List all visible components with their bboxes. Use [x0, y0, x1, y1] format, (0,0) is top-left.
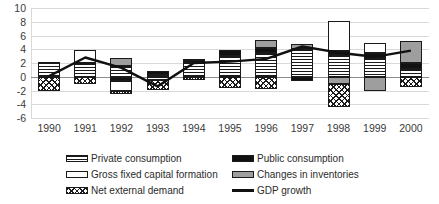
bar-segment [328, 55, 350, 77]
x-axis-tick-label: 1992 [110, 122, 133, 134]
bar-segment [74, 77, 96, 84]
bar-segment [328, 84, 350, 107]
bar-series-layer [31, 8, 429, 118]
public-consumption-swatch [232, 155, 254, 162]
bar-segment [219, 50, 241, 56]
chart-legend: Private consumptionPublic consumptionGro… [66, 150, 406, 198]
bar-group [219, 8, 241, 118]
bar-group [328, 8, 350, 118]
net-external-demand-swatch [66, 187, 88, 194]
bar-segment [110, 58, 132, 67]
bar-segment [400, 63, 422, 69]
bar-segment [255, 48, 277, 54]
bar-group [74, 8, 96, 118]
legend-item[interactable]: GDP growth [232, 185, 406, 196]
x-axis-tick-label: 1990 [37, 122, 60, 134]
legend-label: GDP growth [257, 185, 311, 196]
stacked-bar-chart: 1086420-2-4-6 19901991199219931994199519… [0, 0, 439, 204]
gdp-growth-line-swatch [232, 189, 254, 192]
bar-group [291, 8, 313, 118]
bar-segment [291, 49, 313, 77]
bar-segment [400, 69, 422, 77]
bar-group [183, 8, 205, 118]
bar-segment [110, 66, 132, 76]
legend-item[interactable]: Public consumption [232, 153, 406, 164]
changes-in-inventories-swatch [232, 171, 254, 178]
bar-segment [147, 80, 169, 90]
bar-segment [364, 58, 386, 77]
x-axis-tick-label: 1997 [291, 122, 314, 134]
x-axis-tick-label: 1995 [218, 122, 241, 134]
x-axis-tick-label: 2000 [399, 122, 422, 134]
bar-segment [400, 41, 422, 63]
bar-segment [364, 53, 386, 57]
bar-segment [328, 51, 350, 54]
y-axis-tick-label: -2 [17, 85, 26, 96]
x-axis-tick-label: 1998 [327, 122, 350, 134]
legend-item[interactable]: Private consumption [66, 153, 232, 164]
y-axis-tick-label: 6 [20, 30, 26, 41]
bar-group [364, 8, 386, 118]
x-axis-tick-label: 1996 [254, 122, 277, 134]
bar-segment [183, 59, 205, 61]
bar-segment [38, 77, 60, 91]
bar-segment [110, 91, 132, 94]
bar-segment [183, 77, 205, 80]
y-axis-tick-label: 10 [14, 3, 26, 14]
legend-label: Net external demand [91, 185, 184, 196]
bar-group [38, 8, 60, 118]
bar-segment [255, 77, 277, 89]
gfcf-swatch [66, 171, 88, 178]
bar-group [400, 8, 422, 118]
bar-group [147, 8, 169, 118]
bar-segment [74, 63, 96, 77]
bar-segment [291, 44, 313, 50]
bar-segment [364, 77, 386, 91]
bar-segment [328, 77, 350, 85]
x-axis-tick-label: 1991 [74, 122, 97, 134]
y-axis-tick-label: -4 [17, 99, 26, 110]
bar-group [255, 8, 277, 118]
bar-segment [74, 50, 96, 63]
y-axis-tick-label: 8 [20, 17, 26, 28]
y-axis-tick-label: 4 [20, 44, 26, 55]
bar-segment [147, 71, 169, 74]
bar-segment [291, 77, 313, 81]
bar-segment [219, 77, 241, 89]
y-axis-tick-label: -6 [17, 113, 26, 124]
legend-label: Private consumption [91, 153, 182, 164]
plot-area: 1086420-2-4-6 [31, 8, 429, 118]
bar-segment [110, 81, 132, 91]
bar-segment [255, 40, 277, 48]
legend-item[interactable]: Changes in inventories [232, 169, 406, 180]
gridline: -6 [31, 118, 429, 119]
bar-group [110, 8, 132, 118]
y-axis-tick-label: 0 [20, 72, 26, 83]
legend-label: Gross fixed capital formation [91, 169, 218, 180]
legend-label: Public consumption [257, 153, 344, 164]
legend-item[interactable]: Net external demand [66, 185, 232, 196]
x-axis-tick-label: 1993 [146, 122, 169, 134]
bar-segment [183, 62, 205, 77]
bar-segment [400, 77, 422, 87]
x-axis-tick-label: 1999 [363, 122, 386, 134]
bar-segment [219, 56, 241, 77]
private-consumption-swatch [66, 155, 88, 162]
y-axis-tick-label: 2 [20, 58, 26, 69]
legend-item[interactable]: Gross fixed capital formation [66, 169, 232, 180]
legend-label: Changes in inventories [257, 169, 359, 180]
x-axis-tick-label: 1994 [182, 122, 205, 134]
bar-segment [328, 21, 350, 51]
bar-segment [364, 43, 386, 53]
bar-segment [38, 62, 60, 77]
x-axis-labels: 1990199119921993199419951996199719981999… [31, 122, 429, 138]
bar-segment [255, 53, 277, 76]
